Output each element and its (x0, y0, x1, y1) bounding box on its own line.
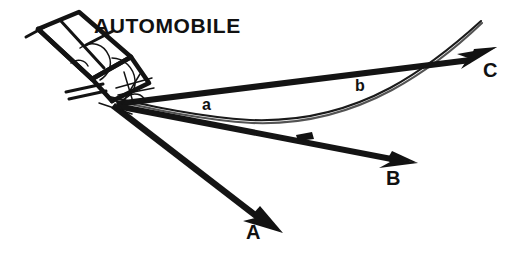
car-bumper-stroke-2 (69, 91, 106, 99)
automobile-title-label: AUTOMOBILE (94, 15, 241, 36)
vector-a-label: A (246, 222, 260, 242)
vector-junction-node (296, 132, 314, 141)
vector-c-label: C (483, 60, 497, 80)
vector-c-shaft (116, 57, 471, 107)
diagram-canvas (0, 0, 524, 261)
automobile-vector-diagram: AUTOMOBILE A B C a b (0, 0, 524, 261)
curve-point-a-label: a (202, 97, 211, 113)
vector-b-label: B (386, 168, 400, 188)
vector-b-shaft (116, 103, 392, 162)
curve-point-b-label: b (355, 78, 365, 94)
vector-b-group (116, 103, 418, 168)
